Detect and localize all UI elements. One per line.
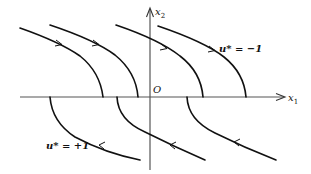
- trajectory-lower-3: [187, 97, 276, 160]
- label-u-plus-one: u* = +1: [46, 140, 89, 151]
- trajectory-upper-1: [20, 28, 103, 97]
- x1-axis-label: x1: [288, 92, 298, 106]
- label-u-minus-one: u* = −1: [219, 43, 262, 54]
- trajectory-lower-2: [117, 97, 205, 160]
- x2-axis-label: x2: [155, 6, 165, 20]
- origin-label: O: [153, 84, 161, 95]
- trajectory-upper-2: [50, 25, 138, 97]
- trajectory-family-u-minus-one: [20, 25, 246, 97]
- phase-plane-diagram: x1 x2 O u* = −1 u* = +1: [0, 0, 311, 174]
